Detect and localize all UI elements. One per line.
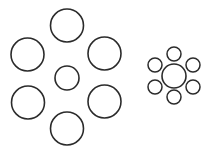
right-surrounding-circles: [148, 47, 200, 104]
right-surrounding-circle-bottom: [167, 90, 181, 104]
left-surrounding-circle-upper-left: [11, 38, 44, 71]
right-center-circle: [162, 64, 186, 88]
right-cluster: [148, 47, 200, 104]
illusion-canvas: [0, 0, 212, 154]
left-center-circle: [55, 66, 79, 90]
left-surrounding-circle-lower-left: [12, 86, 45, 119]
right-surrounding-circle-lower-left: [148, 80, 162, 94]
left-surrounding-circles: [11, 9, 121, 145]
left-surrounding-circle-lower-right: [88, 85, 121, 118]
ebbinghaus-illusion-figure: [0, 0, 212, 154]
right-surrounding-circle-upper-left: [148, 58, 162, 72]
left-surrounding-circle-bottom: [51, 112, 84, 145]
left-surrounding-circle-upper-right: [88, 37, 121, 70]
right-surrounding-circle-top: [167, 47, 181, 61]
left-surrounding-circle-top: [51, 9, 84, 42]
left-cluster: [11, 9, 121, 145]
right-surrounding-circle-lower-right: [186, 80, 200, 94]
right-surrounding-circle-upper-right: [186, 58, 200, 72]
